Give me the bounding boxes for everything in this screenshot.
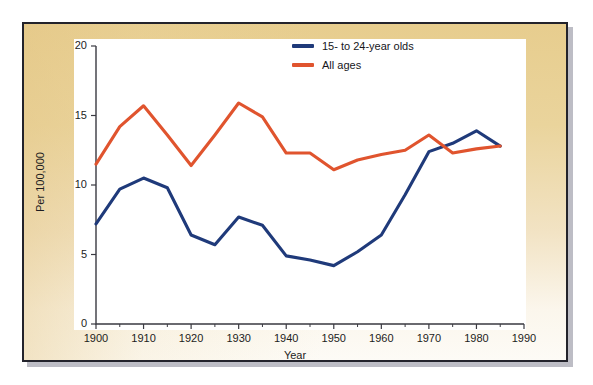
legend-label-all-ages: All ages xyxy=(322,59,361,71)
series-group xyxy=(96,103,500,266)
legend-swatch-all-ages xyxy=(292,63,314,67)
figure-frame: Per 100,000 Year 05101520 19001910192019… xyxy=(22,22,568,362)
plot-canvas xyxy=(74,39,526,330)
series-line-youth xyxy=(96,131,500,266)
y-tick-label-10: 10 xyxy=(24,178,87,190)
y-tick-label-5: 5 xyxy=(24,248,87,260)
x-axis-title: Year xyxy=(24,349,566,361)
y-tick-label-20: 20 xyxy=(24,39,87,51)
x-tick-label-1990: 1990 xyxy=(504,332,544,344)
chart-legend: 15- to 24-year olds All ages xyxy=(292,36,462,74)
x-tick-label-1930: 1930 xyxy=(219,332,259,344)
axis-group xyxy=(91,46,524,329)
x-tick-label-1980: 1980 xyxy=(456,332,496,344)
x-tick-label-1920: 1920 xyxy=(171,332,211,344)
x-tick-label-1960: 1960 xyxy=(361,332,401,344)
plot-area xyxy=(74,39,526,330)
x-tick-label-1940: 1940 xyxy=(266,332,306,344)
legend-label-youth: 15- to 24-year olds xyxy=(322,40,414,52)
series-line-all-ages xyxy=(96,103,500,170)
legend-swatch-youth xyxy=(292,44,314,48)
legend-item-youth: 15- to 24-year olds xyxy=(292,36,462,55)
y-tick-label-15: 15 xyxy=(24,109,87,121)
legend-item-all-ages: All ages xyxy=(292,55,462,74)
y-tick-label-0: 0 xyxy=(24,317,87,329)
x-tick-label-1970: 1970 xyxy=(409,332,449,344)
x-tick-label-1910: 1910 xyxy=(124,332,164,344)
figure-root: Per 100,000 Year 05101520 19001910192019… xyxy=(0,0,593,385)
x-tick-label-1900: 1900 xyxy=(76,332,116,344)
x-tick-label-1950: 1950 xyxy=(314,332,354,344)
